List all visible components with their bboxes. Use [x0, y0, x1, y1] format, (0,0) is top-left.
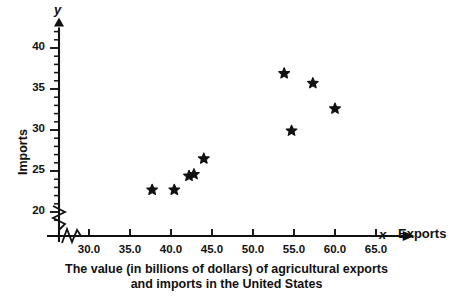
data-point-marker — [147, 184, 158, 194]
y-tick-label: 20 — [19, 204, 45, 216]
x-tick-label: 35.0 — [114, 243, 146, 255]
x-tick-label: 65.0 — [360, 243, 392, 255]
figure-caption-line-1: The value (in billions of dollars) of ag… — [0, 262, 453, 277]
scatter-chart-figure: Imports y x Exports 30.035.040.045.050.0… — [0, 0, 453, 299]
data-points-layer — [147, 68, 341, 195]
x-tick-label: 55.0 — [278, 243, 310, 255]
data-point-marker — [330, 103, 341, 113]
data-point-marker — [169, 184, 180, 194]
axes-layer — [47, 18, 415, 244]
data-point-marker — [198, 153, 209, 163]
y-tick-label: 25 — [19, 163, 45, 175]
data-point-marker — [279, 68, 290, 78]
x-tick-label: 40.0 — [155, 243, 187, 255]
y-tick-label: 40 — [19, 40, 45, 52]
x-tick-label: 60.0 — [319, 243, 351, 255]
figure-caption: The value (in billions of dollars) of ag… — [0, 262, 453, 292]
y-tick-label: 30 — [19, 122, 45, 134]
ticks-layer — [50, 32, 376, 236]
figure-caption-line-2: and imports in the United States — [0, 277, 453, 292]
x-tick-label: 45.0 — [196, 243, 228, 255]
data-point-marker — [286, 125, 297, 135]
plot-area — [0, 0, 453, 262]
y-tick-label: 35 — [19, 81, 45, 93]
data-point-marker — [308, 78, 319, 88]
x-tick-label: 30.0 — [73, 243, 105, 255]
x-tick-label: 50.0 — [237, 243, 269, 255]
